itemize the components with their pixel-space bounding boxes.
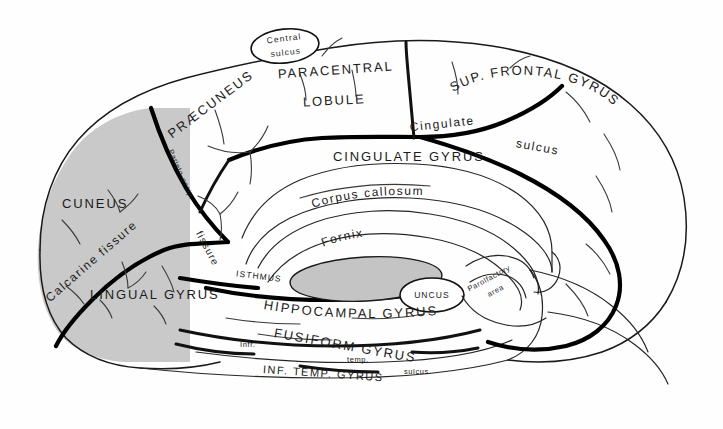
cingulate-gyrus-label: CINGULATE GYRUS — [333, 149, 485, 164]
infr-temp-sulcus-label-line3: sulcus — [404, 367, 429, 376]
paracentral-lobule-label-line2: LOBULE — [303, 91, 366, 109]
cingulate-sulcus-label-a: Cingulate — [409, 113, 475, 134]
uncus-label: UNCUS — [414, 290, 450, 300]
isthmus-label: ISTHMUS — [235, 268, 282, 284]
parieto-occipital-fissure-label: fissure — [194, 229, 221, 268]
brain-diagram-figure: Central sulcus PARACENTRAL LOBULE PRÆCUN… — [0, 0, 723, 429]
inf-temp-gyrus-label: INF. TEMP. GYRUS — [263, 363, 384, 383]
medial-brain-surface-illustration: Central sulcus PARACENTRAL LOBULE PRÆCUN… — [0, 0, 723, 429]
cuneus-label: CUNEUS — [62, 196, 128, 211]
fornix-label-group: Fornix — [319, 226, 402, 250]
parolfactory-area-label-group: Parolfactory area — [466, 263, 518, 305]
sup-frontal-gyrus-label: SUP. FRONTAL GYRUS — [448, 63, 623, 109]
cingulate-sulcus-label-b: sulcus — [515, 136, 560, 157]
infr-temp-sulcus-label-line2: temp. — [347, 355, 369, 364]
fornix-label: Fornix — [319, 226, 364, 250]
central-sulcus-callout — [249, 26, 320, 67]
praecuneus-label: PRÆCUNEUS — [165, 67, 256, 141]
lingual-gyrus-label: LINGUAL GYRUS — [90, 287, 220, 302]
parolfactory-area-label-line2: area — [486, 282, 506, 298]
infr-temp-sulcus-label-line1: Infr. — [240, 340, 256, 349]
